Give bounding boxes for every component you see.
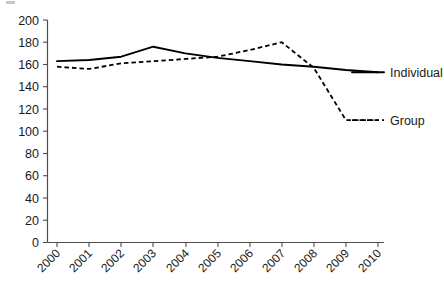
x-tick-label: 2007 bbox=[259, 246, 288, 275]
y-axis-ticks: 200 180 160 140 120 100 80 60 40 20 0 bbox=[18, 14, 47, 251]
legend-label-group: Group bbox=[390, 114, 425, 128]
x-tick-label: 2009 bbox=[323, 246, 352, 275]
y-tick-label: 40 bbox=[25, 192, 39, 206]
y-tick-label: 80 bbox=[25, 147, 39, 161]
line-chart: 200 180 160 140 120 100 80 60 40 20 0 bbox=[0, 0, 444, 299]
legend: Individual Group bbox=[352, 66, 443, 128]
y-tick-label: 160 bbox=[18, 58, 39, 72]
y-tick-label: 60 bbox=[25, 169, 39, 183]
x-tick-label: 2000 bbox=[34, 246, 63, 275]
x-tick-label: 2005 bbox=[195, 246, 224, 275]
y-tick-label: 180 bbox=[18, 36, 39, 50]
y-tick-label: 200 bbox=[18, 14, 39, 28]
x-axis-labels: 2000 2001 2002 2003 2004 2005 2006 2007 … bbox=[34, 246, 384, 275]
y-tick-label: 20 bbox=[25, 214, 39, 228]
x-tick-label: 2010 bbox=[355, 246, 384, 275]
x-tick-label: 2006 bbox=[227, 246, 256, 275]
x-tick-label: 2001 bbox=[66, 246, 95, 275]
series-line-group bbox=[57, 42, 378, 120]
x-axis-ticks bbox=[57, 243, 378, 248]
y-tick-label: 100 bbox=[18, 125, 39, 139]
legend-label-individual: Individual bbox=[390, 66, 443, 80]
chart-canvas: 200 180 160 140 120 100 80 60 40 20 0 bbox=[0, 0, 444, 299]
x-tick-label: 2004 bbox=[163, 246, 192, 275]
y-tick-label: 140 bbox=[18, 80, 39, 94]
y-tick-label: 120 bbox=[18, 103, 39, 117]
x-tick-label: 2008 bbox=[291, 246, 320, 275]
x-tick-label: 2003 bbox=[130, 246, 159, 275]
x-tick-label: 2002 bbox=[98, 246, 127, 275]
y-tick-label: 0 bbox=[32, 236, 39, 250]
series-line-individual bbox=[57, 47, 378, 73]
